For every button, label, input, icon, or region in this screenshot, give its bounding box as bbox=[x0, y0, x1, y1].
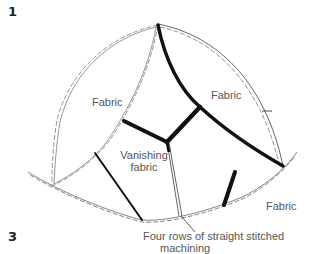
label-fabric-left: Fabric bbox=[92, 96, 123, 108]
label-vanishing-line2: fabric bbox=[112, 161, 176, 173]
thick-seams bbox=[95, 25, 283, 220]
label-fabric-right: Fabric bbox=[211, 89, 242, 101]
label-fabric-bottom-right: Fabric bbox=[266, 200, 297, 212]
step-number-3: 3 bbox=[8, 229, 17, 244]
step-number-1: 1 bbox=[8, 4, 17, 19]
caption-line2: machining bbox=[160, 242, 210, 254]
label-vanishing-line1: Vanishing bbox=[112, 149, 176, 161]
label-vanishing-fabric: Vanishing fabric bbox=[112, 149, 176, 173]
caption-line1: Four rows of straight stitched bbox=[143, 230, 284, 242]
